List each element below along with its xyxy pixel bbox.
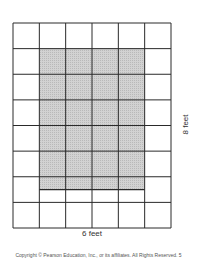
width-label: 6 feet [13, 229, 171, 238]
area-grid-diagram [0, 0, 197, 268]
copyright-text: Copyright © Pearson Education, Inc., or … [15, 252, 177, 258]
copyright-footer: Copyright © Pearson Education, Inc., or … [0, 252, 197, 258]
height-label: 8 feet [181, 110, 190, 140]
grid-lines [13, 23, 171, 228]
page-number: 5 [179, 252, 182, 258]
